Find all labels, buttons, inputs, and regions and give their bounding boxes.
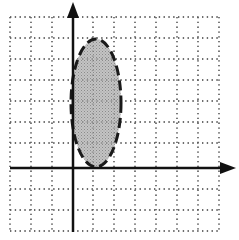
- y-axis-arrow-icon: [67, 2, 79, 18]
- axes: [10, 2, 236, 232]
- x-axis-arrow-icon: [220, 162, 236, 174]
- coordinate-plane: [0, 0, 239, 240]
